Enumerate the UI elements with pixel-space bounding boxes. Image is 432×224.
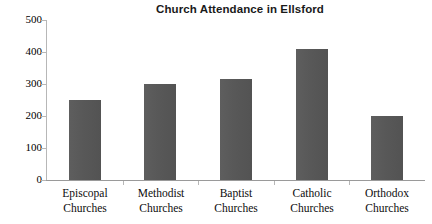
x-axis-label-line-1: Episcopal: [62, 187, 107, 199]
y-axis-tick-label: 200: [2, 110, 42, 121]
x-axis-label-line-1: Baptist: [220, 187, 253, 199]
x-axis-category-labels: EpiscopalChurchesMethodistChurchesBaptis…: [47, 186, 425, 224]
bar[interactable]: [69, 100, 101, 180]
x-axis-line: [46, 180, 425, 181]
x-axis-tick-mark: [198, 181, 199, 185]
plot-area: [47, 20, 425, 180]
x-axis-label-line-2: Churches: [198, 201, 274, 216]
y-axis-tick-label: 500: [2, 14, 42, 25]
y-axis-tick-labels: 0100200300400500: [0, 0, 42, 224]
x-axis-label-line-2: Churches: [349, 201, 425, 216]
x-axis-label-line-1: Methodist: [138, 187, 185, 199]
x-axis-label-line-2: Churches: [123, 201, 199, 216]
x-axis-category-label: CatholicChurches: [274, 186, 350, 216]
bar[interactable]: [220, 79, 252, 180]
x-axis-category-label: EpiscopalChurches: [47, 186, 123, 216]
x-axis-category-label: MethodistChurches: [123, 186, 199, 216]
x-axis-category-label: BaptistChurches: [198, 186, 274, 216]
x-axis-label-line-1: Catholic: [293, 187, 332, 199]
chart-title: Church Attendance in Ellsford: [0, 3, 432, 15]
bar[interactable]: [296, 49, 328, 180]
x-axis-label-line-2: Churches: [274, 201, 350, 216]
bar[interactable]: [144, 84, 176, 180]
x-axis-tick-mark: [123, 181, 124, 185]
y-axis-tick-label: 400: [2, 46, 42, 57]
y-axis-tick-label: 0: [2, 174, 42, 185]
x-axis-tick-mark: [274, 181, 275, 185]
bar-chart: Church Attendance in Ellsford 0100200300…: [0, 0, 432, 224]
bar[interactable]: [371, 116, 403, 180]
x-axis-label-line-1: Orthodox: [365, 187, 409, 199]
y-axis-tick-label: 300: [2, 78, 42, 89]
y-axis-tick-label: 100: [2, 142, 42, 153]
x-axis-label-line-2: Churches: [47, 201, 123, 216]
x-axis-tick-mark: [349, 181, 350, 185]
x-axis-category-label: OrthodoxChurches: [349, 186, 425, 216]
